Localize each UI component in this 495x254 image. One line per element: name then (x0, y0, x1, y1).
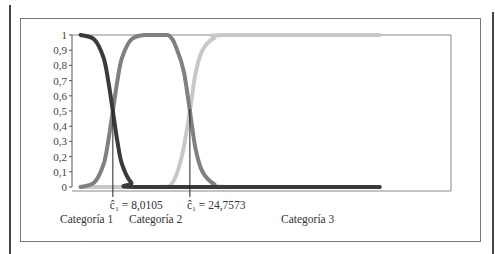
region-label-1: Categoría 1 (60, 213, 113, 225)
series-categor-a-3 (81, 35, 380, 187)
y-tick-label: 0,6 (53, 90, 67, 102)
region-label-3: Categoría 3 (281, 213, 334, 225)
region-label-2: Categoría 2 (129, 213, 182, 225)
y-tick-label: 0,8 (53, 59, 67, 71)
series-categor-a-2 (81, 35, 380, 187)
series-categor-a-1 (81, 35, 380, 187)
y-tick-label: 0,1 (53, 166, 67, 178)
threshold-label-2: ĉ₁ = 24,7573 (187, 199, 246, 212)
y-tick-label: 0,2 (53, 151, 67, 163)
plot-frame (72, 35, 451, 191)
y-tick-label: 0,9 (53, 44, 67, 56)
y-tick-label: 0,7 (53, 75, 67, 87)
y-tick-label: 0,5 (53, 105, 67, 117)
y-tick-label: 0,3 (53, 135, 67, 147)
threshold-label-1: ĉ₁ = 8,0105 (110, 199, 163, 212)
y-tick-label: 1 (62, 29, 68, 41)
y-tick-label: 0,4 (53, 120, 67, 132)
y-tick-label: 0 (62, 181, 68, 193)
